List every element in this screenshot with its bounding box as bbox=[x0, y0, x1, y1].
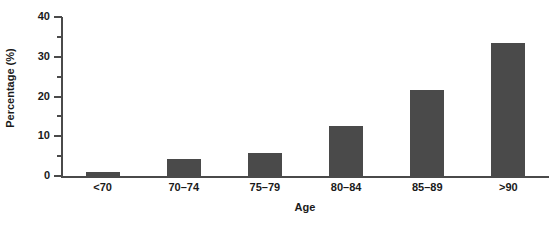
y-tick-major bbox=[54, 16, 62, 18]
y-tick-major bbox=[54, 175, 62, 177]
y-tick-major bbox=[54, 96, 62, 98]
x-tick-label: <70 bbox=[63, 181, 143, 194]
y-tick-label: 40 bbox=[0, 11, 50, 22]
y-tick-label-wrap: 20 bbox=[0, 91, 50, 102]
bar bbox=[167, 159, 201, 176]
y-tick-label: 10 bbox=[0, 130, 50, 141]
y-tick-label-wrap: 10 bbox=[0, 130, 50, 141]
y-tick-label-wrap: 0 bbox=[0, 170, 50, 181]
x-axis-line bbox=[61, 176, 549, 178]
y-tick-label: 20 bbox=[0, 91, 50, 102]
y-tick-label-wrap: 40 bbox=[0, 11, 50, 22]
x-tick-label: 75–79 bbox=[225, 181, 305, 194]
x-tick-label: 85–89 bbox=[387, 181, 467, 194]
x-tick-label: 80–84 bbox=[306, 181, 386, 194]
y-tick-major bbox=[54, 56, 62, 58]
y-axis-title: Percentage (%) bbox=[0, 0, 20, 176]
bar bbox=[86, 172, 120, 176]
y-tick-label-wrap: 30 bbox=[0, 51, 50, 62]
y-tick-label: 0 bbox=[0, 170, 50, 181]
plot-area bbox=[62, 17, 549, 176]
y-tick-label: 30 bbox=[0, 51, 50, 62]
bar bbox=[410, 90, 444, 176]
bar bbox=[491, 43, 525, 176]
x-axis-title: Age bbox=[61, 201, 549, 213]
bar bbox=[329, 126, 363, 176]
y-tick-major bbox=[54, 135, 62, 137]
x-tick-label: 70–74 bbox=[144, 181, 224, 194]
x-tick-label: >90 bbox=[468, 181, 548, 194]
bar-chart: Percentage (%) 010203040 <7070–7475–7980… bbox=[0, 0, 555, 228]
bar bbox=[248, 153, 282, 176]
